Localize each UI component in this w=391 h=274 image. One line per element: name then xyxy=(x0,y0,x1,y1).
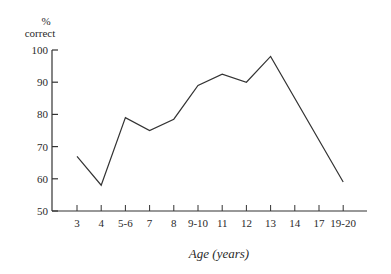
y-tick-label: 50 xyxy=(37,205,49,217)
y-tick-label: 80 xyxy=(37,108,49,120)
y-axis: 5060708090100 xyxy=(32,44,59,217)
x-axis-label: Age (years) xyxy=(188,246,249,261)
x-axis: 345-6789-10111213141719-20 xyxy=(52,205,367,229)
x-tick-label: 5-6 xyxy=(118,217,133,229)
x-tick-label: 17 xyxy=(314,217,326,229)
y-axis-label-percent: % xyxy=(41,15,50,27)
x-tick-label: 3 xyxy=(74,217,80,229)
line-chart: % correct 5060708090100 345-6789-1011121… xyxy=(0,0,391,274)
y-tick-label: 90 xyxy=(37,76,49,88)
x-tick-label: 8 xyxy=(171,217,177,229)
y-tick-label: 60 xyxy=(37,173,49,185)
x-tick-label: 7 xyxy=(147,217,153,229)
y-tick-label: 100 xyxy=(32,44,49,56)
x-tick-label: 14 xyxy=(289,217,301,229)
x-tick-label: 19-20 xyxy=(330,217,356,229)
x-tick-label: 4 xyxy=(98,217,104,229)
x-tick-label: 12 xyxy=(241,217,252,229)
data-line xyxy=(77,56,343,185)
y-tick-label: 70 xyxy=(37,141,49,153)
y-axis-label-correct: correct xyxy=(25,27,56,39)
x-tick-label: 9-10 xyxy=(188,217,209,229)
x-tick-label: 13 xyxy=(265,217,277,229)
x-tick-label: 11 xyxy=(217,217,228,229)
